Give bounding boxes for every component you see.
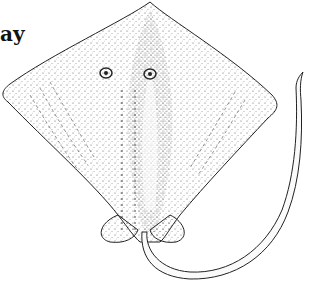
ray-illustration — [0, 0, 309, 283]
